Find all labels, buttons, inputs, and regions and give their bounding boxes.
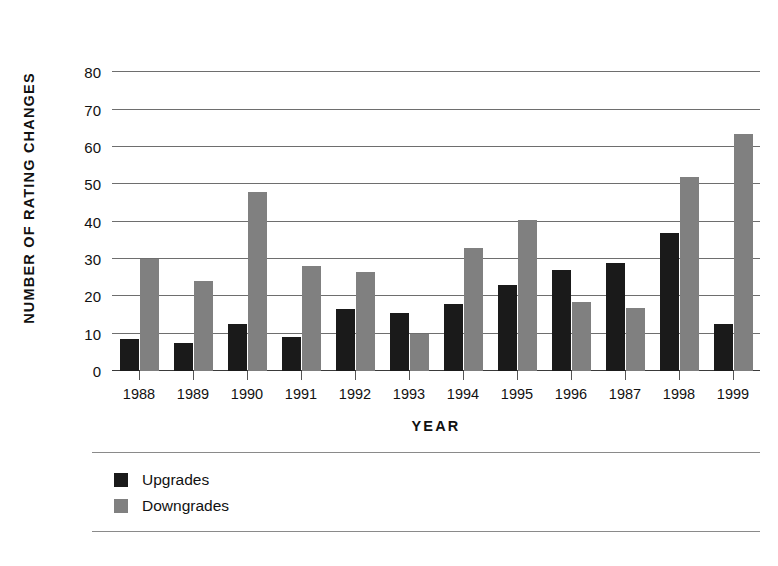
bar-upgrades-1993 [390,313,409,371]
bar-downgrades-1988 [140,259,159,371]
x-tick-1993 [409,371,410,380]
bar-upgrades-1987 [606,263,625,371]
bar-group [228,35,267,371]
y-tick-label-0: 0 [93,364,101,379]
bar-group [174,35,213,371]
legend-label-downgrades: Downgrades [142,497,229,515]
bar-upgrades-1995 [498,285,517,371]
bar-group [390,35,429,371]
bar-downgrades-1991 [302,266,321,371]
bar-group [714,35,753,371]
legend-item-upgrades: Upgrades [114,467,760,493]
x-tick-label-1991: 1991 [285,386,317,402]
bar-group [120,35,159,371]
bar-upgrades-1996 [552,270,571,371]
x-tick-label-1988: 1988 [123,386,155,402]
x-tick-label-1992: 1992 [339,386,371,402]
bar-upgrades-1988 [120,339,139,371]
y-tick-label-30: 30 [84,252,101,267]
x-tick-1987 [625,371,626,380]
legend-swatch-upgrades [114,473,128,487]
x-tick-label-1999: 1999 [717,386,749,402]
x-tick-1999 [733,371,734,380]
bar-upgrades-1989 [174,343,193,371]
legend-bottom-rule [92,531,760,532]
y-tick-label-40: 40 [84,214,101,229]
x-tick-label-1994: 1994 [447,386,479,402]
legend-item-downgrades: Downgrades [114,493,760,519]
x-tick-1994 [463,371,464,380]
x-tick-label-1989: 1989 [177,386,209,402]
bar-group [552,35,591,371]
bar-downgrades-1987 [626,308,645,371]
legend-label-upgrades: Upgrades [142,471,209,489]
bar-upgrades-1999 [714,324,733,371]
plot-area: 01020304050607080 1988198919901991199219… [112,35,760,371]
x-tick-1991 [301,371,302,380]
x-tick-1988 [139,371,140,380]
bar-downgrades-1995 [518,220,537,371]
bar-upgrades-1991 [282,337,301,371]
x-tick-label-1998: 1998 [663,386,695,402]
x-tick-label-1993: 1993 [393,386,425,402]
bar-group [606,35,645,371]
bar-group [444,35,483,371]
x-axis-title: YEAR [112,418,760,434]
bar-group [336,35,375,371]
bar-downgrades-1990 [248,192,267,371]
bar-downgrades-1992 [356,272,375,371]
x-tick-label-1990: 1990 [231,386,263,402]
bar-downgrades-1993 [410,334,429,371]
bar-downgrades-1998 [680,177,699,371]
y-tick-label-20: 20 [84,289,101,304]
y-tick-label-80: 80 [84,65,101,80]
bar-group [498,35,537,371]
bar-upgrades-1998 [660,233,679,371]
y-axis-title: NUMBER OF RATING CHANGES [14,38,44,358]
x-tick-1989 [193,371,194,380]
bar-series-container [112,35,760,371]
x-tick-label-1987: 1987 [609,386,641,402]
bar-group [660,35,699,371]
x-tick-1998 [679,371,680,380]
bar-downgrades-1996 [572,302,591,371]
legend-items: UpgradesDowngrades [92,453,760,531]
bar-downgrades-1994 [464,248,483,371]
bar-downgrades-1989 [194,281,213,371]
bar-downgrades-1999 [734,134,753,371]
x-tick-1995 [517,371,518,380]
y-tick-label-10: 10 [84,326,101,341]
y-tick-label-50: 50 [84,177,101,192]
bar-group [282,35,321,371]
x-tick-label-1995: 1995 [501,386,533,402]
x-tick-1990 [247,371,248,380]
bar-upgrades-1992 [336,309,355,371]
bar-chart-figure: NUMBER OF RATING CHANGES 010203040506070… [0,0,778,566]
legend-swatch-downgrades [114,499,128,513]
y-tick-label-70: 70 [84,102,101,117]
x-tick-1992 [355,371,356,380]
chart-legend: UpgradesDowngrades [92,452,760,532]
x-tick-1996 [571,371,572,380]
y-tick-label-60: 60 [84,140,101,155]
x-tick-label-1996: 1996 [555,386,587,402]
bar-upgrades-1990 [228,324,247,371]
bar-upgrades-1994 [444,304,463,371]
